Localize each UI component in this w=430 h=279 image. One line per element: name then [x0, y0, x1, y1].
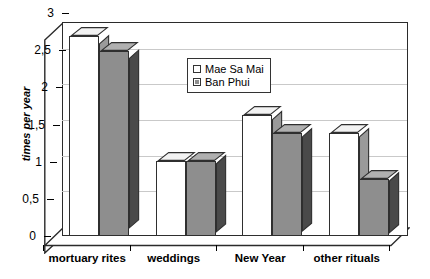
bar-chart: times per year 32,521,510,50 mortuary ri…	[0, 0, 430, 279]
x-axis-category-label: weddings	[131, 252, 218, 264]
x-axis-category-label: other rituals	[304, 252, 391, 264]
legend-swatch-icon	[193, 65, 201, 73]
legend-label: Mae Sa Mai	[205, 64, 264, 75]
legend-item: Ban Phui	[193, 76, 264, 88]
bar-front-face	[99, 51, 129, 236]
bar-front-face	[329, 133, 359, 236]
bar	[272, 133, 302, 236]
bar-front-face	[359, 179, 389, 236]
y-axis-tick-labels: 32,521,510,50	[6, 0, 42, 279]
bar-side-face	[389, 170, 400, 236]
bar	[359, 179, 389, 236]
bar	[69, 36, 99, 236]
bar-top-face	[329, 124, 370, 133]
legend: Mae Sa Mai Ban Phui	[187, 58, 271, 93]
y-axis-tick-mark	[50, 162, 57, 163]
y-axis-tick-label: 0,5	[13, 193, 39, 205]
bar	[156, 161, 186, 236]
y-axis-tick-label: 1	[16, 156, 42, 168]
y-axis-tick-mark	[62, 13, 69, 14]
y-axis-tick-mark	[59, 50, 66, 51]
bar-front-face	[186, 161, 216, 236]
x-axis-tick-mark	[43, 245, 44, 251]
x-axis-tick-mark	[130, 245, 131, 251]
bar-front-face	[69, 36, 99, 236]
bar-top-face	[242, 106, 283, 115]
bar-side-face	[302, 124, 313, 236]
x-axis-tick-mark	[303, 245, 304, 251]
bar-front-face	[242, 115, 272, 236]
y-axis-tick-mark	[47, 199, 54, 200]
bar-top-face	[99, 42, 140, 51]
x-axis-category-label: New Year	[217, 252, 304, 264]
y-axis-tick-mark	[44, 236, 51, 237]
bar-top-face	[359, 170, 400, 179]
y-axis-tick-label: 2	[22, 81, 48, 93]
bar-side-face	[129, 42, 140, 236]
y-axis-tick-mark	[56, 87, 63, 88]
bar-front-face	[156, 161, 186, 236]
y-axis-tick-label: 3	[28, 7, 54, 19]
bar	[99, 51, 129, 236]
y-axis-tick-mark	[53, 125, 60, 126]
y-axis-tick-label: 0	[10, 230, 36, 242]
bar-side-face	[216, 152, 227, 236]
x-axis-category-label: mortuary rites	[44, 252, 131, 264]
bar-top-face	[186, 152, 227, 161]
bar	[242, 115, 272, 236]
legend-swatch-icon	[193, 78, 201, 86]
bar-top-face	[69, 27, 110, 36]
y-axis-tick-label: 2,5	[25, 44, 51, 56]
y-axis-tick-label: 1,5	[19, 119, 45, 131]
bar	[329, 133, 359, 236]
x-axis-tick-mark	[216, 245, 217, 251]
bar-top-face	[272, 124, 313, 133]
legend-label: Ban Phui	[205, 77, 250, 88]
bar	[186, 161, 216, 236]
legend-item: Mae Sa Mai	[193, 63, 264, 75]
bar-front-face	[272, 133, 302, 236]
x-axis-tick-mark	[389, 245, 390, 251]
